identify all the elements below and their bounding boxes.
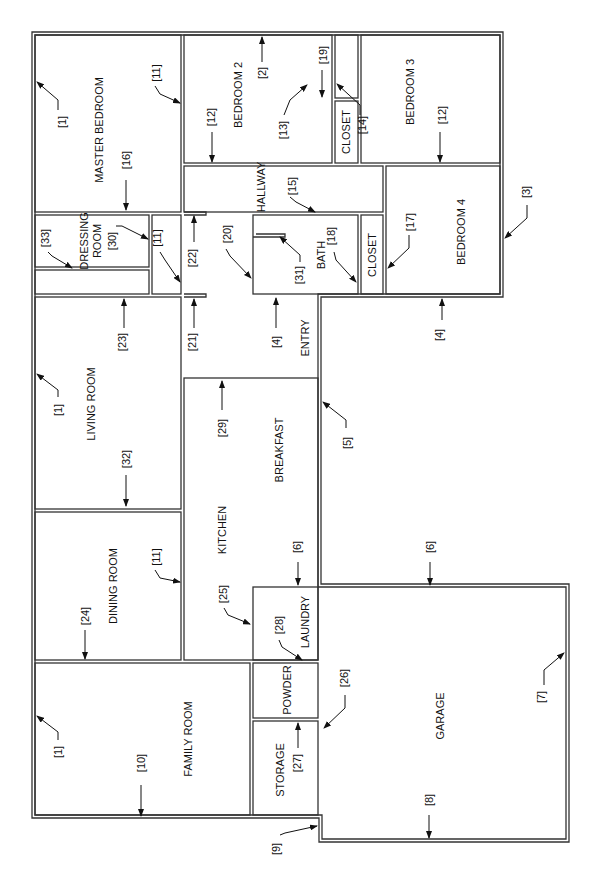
callout-19: [19] (317, 46, 329, 64)
callout-5: [5] (341, 437, 353, 449)
bath-walls (253, 215, 358, 294)
bedroom3-walls (361, 35, 500, 163)
kitchen-walls (184, 378, 318, 660)
callout-14: [14] (356, 116, 368, 134)
callout-24: [24] (79, 607, 91, 625)
room-closet-mid: CLOSET (366, 233, 378, 277)
callout-30: [30] (106, 232, 118, 250)
callout-15: [15] (286, 177, 298, 195)
room-family-room: FAMILY ROOM (182, 701, 194, 776)
callout-10: [10] (135, 754, 147, 772)
room-bedroom2: BEDROOM 2 (232, 62, 244, 128)
room-bedroom3: BEDROOM 3 (404, 59, 416, 125)
callout-23: [23] (116, 333, 128, 351)
living-room-walls (35, 297, 181, 509)
room-dining-room: DINING ROOM (107, 548, 119, 624)
hallway-walls (184, 166, 383, 212)
bedroom2-walls (184, 35, 332, 163)
callout-33: [33] (39, 229, 51, 247)
callout-4-bedroom4: [4] (433, 329, 445, 341)
callout-20: [20] (221, 225, 233, 243)
closet-top-upper (335, 35, 358, 98)
room-bedroom4: BEDROOM 4 (455, 199, 467, 265)
room-entry: ENTRY (299, 319, 311, 357)
room-living-room: LIVING ROOM (85, 367, 97, 440)
callout-11-master: [11] (150, 64, 162, 82)
room-hallway: HALLWAY (255, 161, 267, 212)
callout-22: [22] (186, 249, 198, 267)
family-room-walls (35, 663, 250, 815)
callout-26: [26] (338, 669, 350, 687)
room-dressing-1: DRESSING (78, 212, 90, 269)
room-garage: GARAGE (434, 692, 446, 739)
callout-31: [31] (293, 266, 305, 284)
callout-21: [21] (186, 333, 198, 351)
callout-17: [17] (404, 213, 416, 231)
callout-6-kitchen: [6] (291, 541, 303, 553)
callout-1-master: [1] (56, 116, 68, 128)
callout-32: [32] (120, 450, 132, 468)
callout-12-bedroom2: [12] (205, 108, 217, 126)
callouts: [1] [11] [16] [2] [12] [13] [19] [14] [1… (37, 37, 564, 855)
callout-13: [13] (277, 121, 289, 139)
room-dressing-2: ROOM (91, 224, 103, 258)
hall-stub-bottom (184, 294, 206, 297)
hall-stub-top (184, 212, 206, 215)
callout-6-garage: [6] (424, 541, 436, 553)
callout-8: [8] (423, 794, 435, 806)
callout-16: [16] (120, 151, 132, 169)
callout-2: [2] (256, 67, 268, 79)
callout-25: [25] (217, 585, 229, 603)
callout-4-entry: [4] (270, 336, 282, 348)
callout-28: [28] (273, 616, 285, 634)
callout-3: [3] (520, 186, 532, 198)
callout-12-bedroom3: [12] (436, 106, 448, 124)
room-laundry: LAUNDRY (299, 595, 311, 648)
room-labels: MASTER BEDROOM BEDROOM 2 BEDROOM 3 CLOSE… (78, 59, 467, 797)
callout-7: [7] (535, 691, 547, 703)
callout-29: [29] (216, 419, 228, 437)
room-storage: STORAGE (274, 743, 286, 797)
callout-11-dining: [11] (150, 548, 162, 566)
callout-11-closet: [11] (151, 229, 163, 247)
closet-master-walls (152, 215, 181, 294)
room-master-bedroom: MASTER BEDROOM (93, 77, 105, 183)
dressing-lower-walls (35, 270, 149, 294)
callout-27: [27] (291, 754, 303, 772)
room-breakfast: BREAKFAST (273, 417, 285, 482)
callout-1-family: [1] (52, 746, 64, 758)
room-powder: POWDER (281, 665, 293, 715)
room-kitchen: KITCHEN (216, 506, 228, 554)
callout-18: [18] (325, 227, 337, 245)
callout-9: [9] (270, 843, 282, 855)
floor-plan: MASTER BEDROOM BEDROOM 2 BEDROOM 3 CLOSE… (0, 0, 597, 885)
bath-partition (253, 234, 285, 237)
callout-1-living: [1] (52, 404, 64, 416)
room-closet-top: CLOSET (340, 110, 352, 154)
